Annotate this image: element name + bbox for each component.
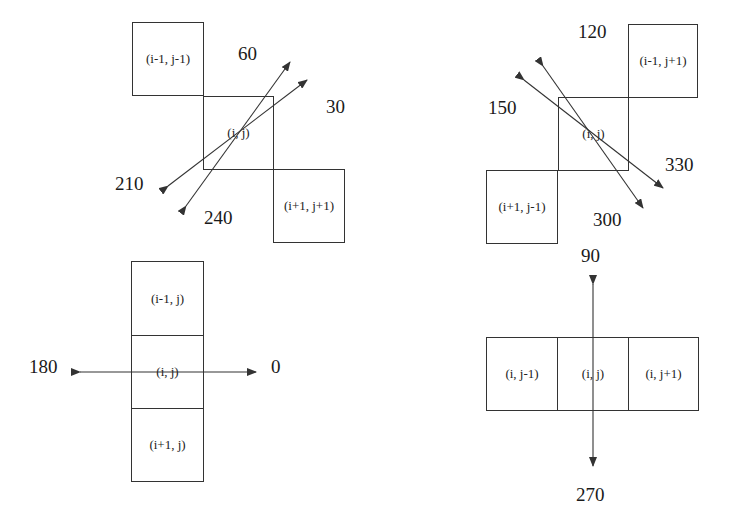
arrow-30-210 [168,80,307,186]
direction-arrows [0,0,732,532]
arrow-60-240 [186,62,290,206]
arrow-150-330 [524,80,663,188]
neighbor-direction-diagram: (i-1, j-1) (i, j) (i+1, j+1) 60 30 210 2… [0,0,732,532]
arrow-120-300 [543,66,643,208]
